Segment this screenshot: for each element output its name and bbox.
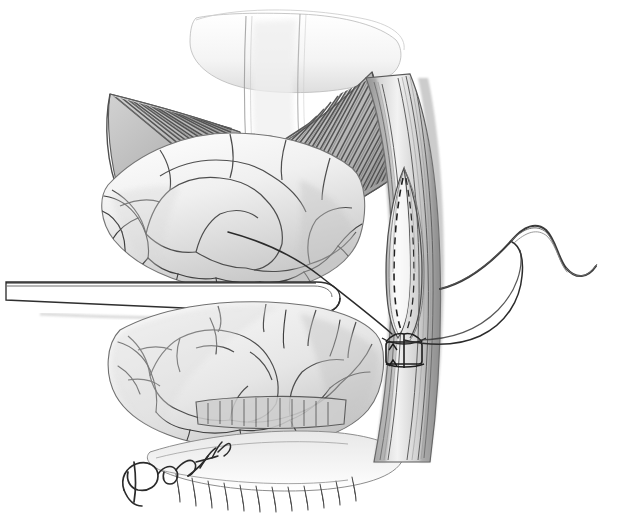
illustration-canvas xyxy=(0,0,627,530)
surgical-illustration xyxy=(0,0,627,530)
deep-striated-plane xyxy=(196,396,346,428)
